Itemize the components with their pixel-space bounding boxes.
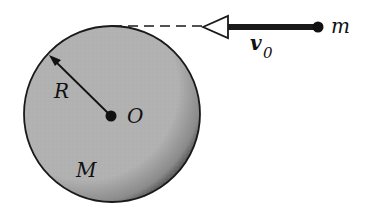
velocity-label: v [250,31,262,55]
center-point [106,111,117,122]
diagram-canvas: R O M m v 0 [0,0,367,214]
disk-mass-label: M [75,158,97,182]
open-arrowhead-icon [203,16,228,38]
velocity-arrow [203,16,324,38]
projectile-mass-label: m [331,14,350,38]
radius-label: R [53,79,69,103]
velocity-subscript: 0 [263,44,273,62]
projectile-point [313,22,324,33]
center-label: O [127,104,143,128]
